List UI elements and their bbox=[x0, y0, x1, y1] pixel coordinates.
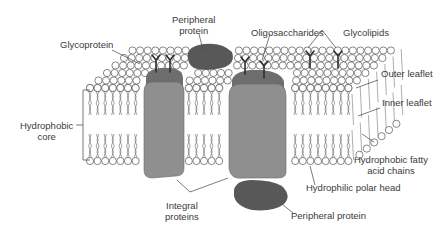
label-hydrophobic-fatty-acid-chains: Hydrophobic fatty acid chains bbox=[354, 154, 428, 176]
integral-protein-1 bbox=[144, 55, 184, 178]
label-peripheral-protein-bottom: Peripheral protein bbox=[291, 210, 366, 221]
inner-leaflet-front bbox=[86, 134, 352, 165]
label-outer-leaflet: Outer leaflet bbox=[381, 68, 433, 79]
outer-leaflet-front bbox=[86, 84, 352, 115]
integral-protein-2 bbox=[229, 57, 286, 178]
label-glycolipids: Glycolipids bbox=[343, 27, 389, 38]
label-inner-leaflet: Inner leaflet bbox=[382, 97, 432, 108]
label-oligosaccharides: Oligosaccharides bbox=[251, 27, 324, 38]
peripheral-protein-top bbox=[188, 44, 233, 70]
label-peripheral-protein-top: Peripheral protein bbox=[172, 14, 215, 36]
label-hydrophilic-polar-head: Hydrophilic polar head bbox=[306, 182, 401, 193]
label-glycoprotein: Glycoprotein bbox=[60, 39, 113, 50]
label-integral-proteins: Integral proteins bbox=[165, 200, 199, 222]
hydrophobic-core-bracket bbox=[76, 90, 90, 160]
peripheral-protein-bottom bbox=[234, 180, 288, 210]
label-hydrophobic-core: Hydrophobic core bbox=[20, 120, 73, 142]
